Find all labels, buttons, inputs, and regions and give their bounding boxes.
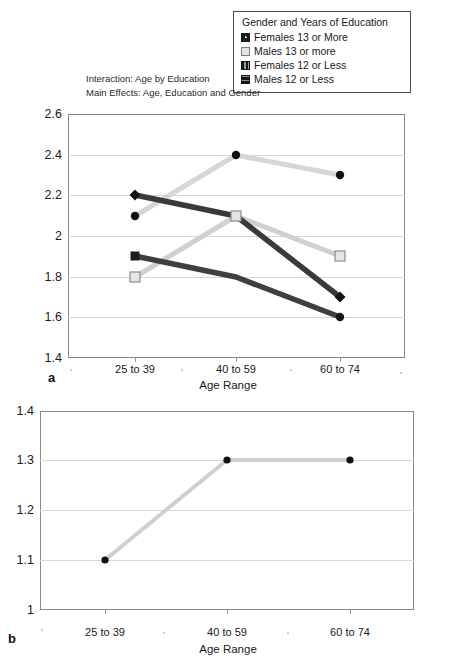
panel-a-marker-males13-p1 — [231, 211, 241, 221]
panel-a: 2.6 2.4 2.2 2 1.8 1.6 1.4 — [0, 0, 456, 395]
panel-a-marker-females13-p1 — [232, 151, 240, 159]
panel-a-line-females-13-or-more — [135, 155, 340, 216]
panel-a-xaxis-title: Age Range — [199, 379, 257, 391]
scan-speck — [287, 632, 289, 634]
panel-b-line-series-1 — [105, 460, 350, 560]
panel-a-xtick-mark-2 — [340, 358, 341, 362]
scan-speck — [41, 629, 43, 631]
panel-a-marker-males13-p2 — [335, 251, 345, 261]
panel-a-tag: a — [48, 370, 55, 385]
panel-b-xtick-mark-1 — [227, 610, 228, 614]
scan-speck — [181, 369, 183, 371]
panel-b-marker-p2 — [346, 456, 353, 463]
panel-b-marker-p0 — [101, 556, 108, 563]
panel-a-xtick-mark-0 — [135, 358, 136, 362]
panel-a-xtick-label-1: 40 to 59 — [216, 363, 256, 375]
panel-a-marker-males12-p2 — [336, 313, 344, 321]
panel-b-ytick-label-3: 1.1 — [4, 553, 34, 567]
panel-a-line-males-13-or-more — [135, 216, 340, 277]
scan-speck — [163, 632, 165, 634]
figure-page: Gender and Years of Education Females 13… — [0, 0, 456, 661]
panel-a-marker-males12-p0 — [131, 252, 140, 261]
panel-a-marker-females12-p0 — [130, 190, 141, 201]
panel-b-xtick-mark-2 — [350, 610, 351, 614]
panel-b-ytick-label-4: 1 — [4, 603, 34, 617]
panel-a-marker-females13-p0 — [131, 212, 139, 220]
panel-a-ytick-label-1: 2.4 — [28, 148, 62, 162]
panel-a-series-layer — [68, 114, 405, 358]
panel-b-xtick-label-0: 25 to 39 — [85, 626, 125, 638]
panel-a-marker-females13-p2 — [336, 171, 344, 179]
panel-b-ytick-label-1: 1.3 — [4, 453, 34, 467]
panel-a-ytick-label-2: 2.2 — [28, 188, 62, 202]
panel-b-ytick-label-0: 1.4 — [4, 404, 34, 418]
panel-a-xtick-label-0: 25 to 39 — [115, 363, 155, 375]
scan-speck — [400, 372, 402, 374]
panel-b-xtick-label-2: 60 to 74 — [330, 626, 370, 638]
panel-a-xtick-mark-1 — [236, 358, 237, 362]
panel-b-xaxis-title: Age Range — [199, 643, 257, 655]
panel-a-ytick-label-4: 1.8 — [28, 270, 62, 284]
panel-b-tag: b — [8, 631, 16, 646]
panel-b-plot-area — [40, 411, 414, 610]
panel-a-xtick-label-2: 60 to 74 — [320, 363, 360, 375]
scan-speck — [290, 369, 292, 371]
panel-a-ytick-label-3: 2 — [28, 229, 62, 243]
panel-a-line-males-12-or-less — [135, 256, 340, 317]
scan-speck — [70, 369, 72, 371]
panel-b-marker-p1 — [223, 456, 230, 463]
panel-b-series-layer — [40, 411, 414, 610]
panel-a-ytick-label-5: 1.6 — [28, 310, 62, 324]
panel-a-ytick-label-6: 1.4 — [28, 351, 62, 365]
panel-b-xtick-mark-0 — [105, 610, 106, 614]
panel-a-ytick-label-0: 2.6 — [28, 107, 62, 121]
panel-a-plot-area — [68, 114, 405, 358]
panel-a-marker-males13-p0 — [130, 272, 140, 282]
panel-b-ytick-label-2: 1.2 — [4, 503, 34, 517]
panel-b-xtick-label-1: 40 to 59 — [207, 626, 247, 638]
panel-b: 1.4 1.3 1.2 1.1 1 25 to 39 40 to 59 60 t… — [0, 400, 456, 661]
